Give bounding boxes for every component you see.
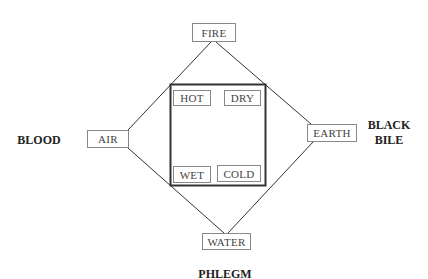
element-earth-box: EARTH (307, 124, 357, 142)
element-air-label: AIR (98, 133, 118, 145)
humor-black-bile-line2: BILE (364, 133, 414, 148)
humor-phlegm-label: PHLEGM (195, 267, 255, 279)
quality-cold-label: COLD (223, 168, 254, 180)
quality-dry-label: DRY (231, 92, 255, 104)
quality-dry-box: DRY (224, 90, 261, 106)
humor-blood-label: BLOOD (14, 133, 64, 148)
quality-hot-box: HOT (173, 90, 211, 106)
quality-cold-box: COLD (217, 165, 261, 182)
element-air-box: AIR (87, 130, 129, 148)
element-water-label: WATER (207, 236, 245, 248)
line-fire-earth (216, 42, 311, 124)
element-water-box: WATER (202, 233, 251, 250)
humor-black-bile-line1: BLACK (364, 118, 414, 133)
quality-hot-label: HOT (180, 92, 204, 104)
element-earth-label: EARTH (313, 127, 351, 139)
element-fire-label: FIRE (201, 27, 226, 39)
quality-wet-box: WET (173, 166, 211, 183)
element-fire-box: FIRE (192, 23, 236, 42)
line-air-water (128, 148, 224, 233)
humor-black-bile-label: BLACK BILE (364, 118, 414, 148)
line-earth-water (228, 142, 313, 233)
quality-wet-label: WET (180, 169, 205, 181)
